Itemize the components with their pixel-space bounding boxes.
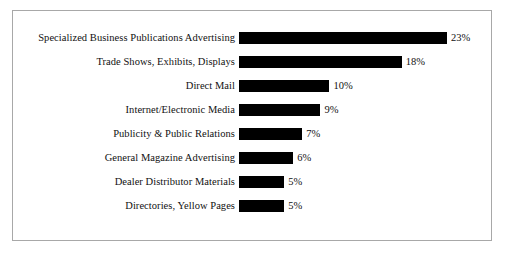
- bar-category-label: General Magazine Advertising: [13, 151, 235, 165]
- chart-bar-row: Direct Mail10%: [13, 79, 491, 93]
- chart-bar-row: Publicity & Public Relations7%: [13, 127, 491, 141]
- bar: [239, 80, 329, 92]
- bar: [239, 56, 402, 68]
- bar-container: 18%: [239, 55, 425, 69]
- bar-category-label: Internet/Electronic Media: [13, 103, 235, 117]
- chart-bar-row: General Magazine Advertising6%: [13, 151, 491, 165]
- chart-bar-row: Directories, Yellow Pages5%: [13, 199, 491, 213]
- bar-category-label: Directories, Yellow Pages: [13, 199, 235, 213]
- bar-value-label: 5%: [288, 199, 302, 213]
- bar: [239, 176, 284, 188]
- chart-bar-row: Specialized Business Publications Advert…: [13, 31, 491, 45]
- bar-category-label: Dealer Distributor Materials: [13, 175, 235, 189]
- bar-value-label: 9%: [324, 103, 338, 117]
- bar: [239, 104, 320, 116]
- bar: [239, 32, 447, 44]
- bar-category-label: Publicity & Public Relations: [13, 127, 235, 141]
- bar-category-label: Specialized Business Publications Advert…: [13, 31, 235, 45]
- bar-value-label: 18%: [406, 55, 425, 69]
- bar-container: 6%: [239, 151, 311, 165]
- bar-container: 5%: [239, 199, 302, 213]
- bar-value-label: 5%: [288, 175, 302, 189]
- chart-plot-area: Specialized Business Publications Advert…: [13, 11, 491, 240]
- chart-bar-row: Trade Shows, Exhibits, Displays18%: [13, 55, 491, 69]
- bar-value-label: 7%: [306, 127, 320, 141]
- bar-value-label: 23%: [451, 31, 470, 45]
- bar: [239, 152, 293, 164]
- bar-container: 9%: [239, 103, 338, 117]
- bar-category-label: Trade Shows, Exhibits, Displays: [13, 55, 235, 69]
- bar-value-label: 10%: [333, 79, 352, 93]
- bar-value-label: 6%: [297, 151, 311, 165]
- bar-container: 7%: [239, 127, 320, 141]
- chart-bar-row: Internet/Electronic Media9%: [13, 103, 491, 117]
- bar: [239, 200, 284, 212]
- bar-container: 10%: [239, 79, 353, 93]
- bar-container: 23%: [239, 31, 470, 45]
- bar-category-label: Direct Mail: [13, 79, 235, 93]
- chart-figure: Specialized Business Publications Advert…: [12, 10, 492, 241]
- bar: [239, 128, 302, 140]
- bar-container: 5%: [239, 175, 302, 189]
- chart-bar-row: Dealer Distributor Materials5%: [13, 175, 491, 189]
